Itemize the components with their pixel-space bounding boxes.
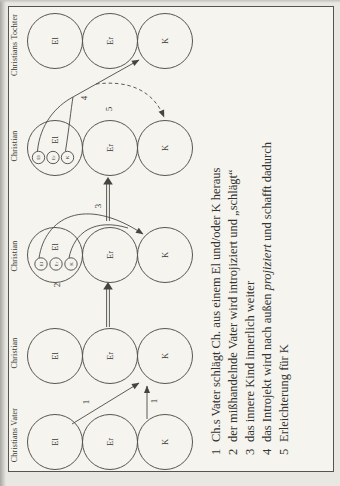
legend-item-text: der mißhandelnde Vater wird introjiziert… — [226, 169, 240, 442]
ego-circle-vater-k: K — [137, 414, 193, 470]
legend-item-number: 1 — [208, 442, 225, 455]
legend-item-number: 2 — [225, 442, 242, 455]
ego-circle-tochter-er: Er — [82, 13, 138, 69]
legend-item-number: 5 — [276, 442, 293, 455]
ego-circle-tochter-el: El — [27, 13, 83, 69]
ego-label: El — [50, 136, 60, 144]
ego-circle-christian2-k: K — [137, 227, 193, 283]
column-header-christians-tochter: Christians Tochter — [10, 0, 19, 90]
ego-label: K — [160, 252, 170, 258]
legend-item-number: 3 — [242, 442, 259, 455]
legend-item-number: 4 — [259, 442, 276, 455]
ego-circle-vater-el: El — [27, 414, 83, 470]
ego-label: K — [160, 439, 170, 445]
legend-item-text: und schafft dadurch — [260, 142, 274, 244]
ego-label: El — [50, 438, 60, 446]
ego-label: Er — [105, 37, 115, 45]
legend-item-4: 4das Introjekt wird nach außen projizier… — [259, 142, 276, 455]
ego-circle-christian3-er: Er — [82, 120, 138, 176]
ego-circle-christian1-er: Er — [82, 328, 138, 384]
ego-label: Er — [105, 251, 115, 259]
ego-circle-christian3-el: El — [27, 120, 83, 176]
ego-circle-christian1-k: K — [137, 328, 193, 384]
ego-label: K — [160, 38, 170, 44]
scanned-figure: Christians Vater Christian Christian Chr… — [0, 0, 340, 486]
scan-edge-shadow-left — [0, 0, 6, 486]
ego-label: Er — [105, 144, 115, 152]
scanned-page: Christians Vater Christian Christian Chr… — [0, 0, 340, 486]
legend-item-2: 2der mißhandelnde Vater wird introjizier… — [225, 142, 242, 455]
legend-item-3: 3das innere Kind innerlich weiter — [242, 142, 259, 455]
legend-item-italic: projiziert — [260, 244, 274, 290]
ego-label: El — [50, 37, 60, 45]
legend-item-5: 5Erleichterung für K — [276, 142, 293, 455]
legend-item-text: Erleichterung für K — [277, 344, 291, 442]
ego-circle-christian1-el: El — [27, 328, 83, 384]
legend-item-text: Ch.s Vater schlägt Ch. aus einem El und/… — [209, 168, 223, 442]
scan-edge-shadow-top — [0, 0, 340, 3]
ego-label: K — [160, 145, 170, 151]
ego-circle-christian2-er: Er — [82, 227, 138, 283]
ego-circle-vater-er: Er — [82, 414, 138, 470]
ego-label: K — [160, 353, 170, 359]
legend-item-1: 1Ch.s Vater schlägt Ch. aus einem El und… — [208, 142, 225, 455]
ego-label: El — [50, 352, 60, 360]
ego-circle-christian2-el: El — [27, 227, 83, 283]
column-header-christians-vater: Christians Vater — [10, 390, 19, 480]
ego-circle-tochter-k: K — [137, 13, 193, 69]
legend-item-text: das innere Kind innerlich weiter — [243, 281, 257, 442]
ego-label: Er — [105, 438, 115, 446]
column-header-christian-3: Christian — [10, 101, 19, 191]
legend: 1Ch.s Vater schlägt Ch. aus einem El und… — [208, 142, 293, 455]
legend-item-text: das Introjekt wird nach außen — [260, 290, 274, 442]
ego-circle-christian3-k: K — [137, 120, 193, 176]
ego-label: El — [50, 243, 60, 251]
column-header-christian-1: Christian — [10, 308, 19, 398]
column-header-christian-2: Christian — [10, 211, 19, 301]
ego-label: Er — [105, 352, 115, 360]
